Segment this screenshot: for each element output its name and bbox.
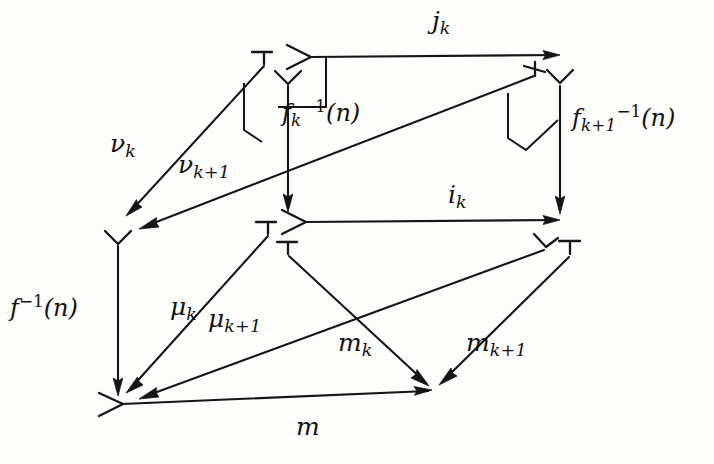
node-marker-top-right (547, 70, 573, 83)
arrow-j-k (287, 45, 560, 69)
label-m-k-plus-1: mk+1 (466, 330, 527, 359)
label-i-k: ik (448, 182, 467, 211)
label-nu-k-plus-1: νk+1 (178, 152, 230, 181)
label-fk-plus-1-inverse-n: fk+1−1(n) (572, 103, 675, 134)
node-marker-mid-left (105, 231, 131, 244)
arrow-fk-plus-1-inverse-n (555, 86, 565, 214)
label-fk-inverse-n: fk−1(n) (282, 98, 360, 129)
arrow-i-k (282, 210, 560, 234)
label-m-k: mk (338, 330, 373, 359)
arrow-m-k (289, 256, 429, 386)
arrow-m (99, 387, 432, 417)
label-mu-k: μk (170, 294, 197, 323)
node-marker-top-mid (275, 71, 301, 84)
pullback-corner-left-slant (244, 83, 262, 142)
arrow-m-k-plus-1 (439, 257, 569, 385)
node-marker-top-left (252, 52, 272, 64)
commutative-diagram: jk ik m νk νk+1 μk μk+1 mk mk+1 f−1(n) f… (0, 0, 714, 464)
arrow-f-inverse-n (113, 246, 123, 396)
diagram-canvas (0, 0, 714, 464)
arrow-nu-k (126, 66, 264, 216)
node-marker-mid-right-outer (559, 241, 580, 254)
node-marker-mid-mid (256, 222, 276, 234)
label-mu-k-plus-1: μk+1 (208, 306, 261, 335)
pullback-corner-right-slant (508, 93, 558, 150)
node-marker-mid-mid-lower (277, 242, 297, 254)
arrow-mu-k-plus-1 (139, 250, 544, 399)
label-j-k: jk (432, 8, 451, 37)
node-marker-mid-right (534, 234, 558, 247)
node-marker-top-right-mid (524, 62, 545, 76)
label-f-inverse-n: f−1(n) (10, 293, 78, 320)
label-nu-k: νk (110, 131, 136, 160)
label-m: m (296, 414, 320, 439)
